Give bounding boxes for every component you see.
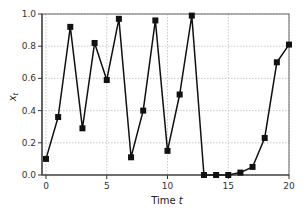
data-point-marker (128, 154, 134, 160)
data-point-marker (116, 16, 122, 22)
data-point-marker (189, 13, 195, 19)
y-tick-label: 0.8 (22, 41, 37, 51)
data-point-marker (237, 170, 243, 176)
data-point-marker (201, 172, 207, 178)
x-tick-label: 5 (104, 181, 110, 191)
data-point-marker (177, 92, 183, 98)
data-point-marker (225, 172, 231, 178)
data-point-marker (165, 148, 171, 154)
y-axis-label: xt (7, 92, 20, 102)
data-point-marker (67, 24, 73, 30)
data-point-marker (213, 172, 219, 178)
data-point-marker (262, 135, 268, 141)
data-point-marker (274, 59, 280, 65)
data-point-marker (92, 40, 98, 46)
data-point-marker (250, 164, 256, 170)
x-tick-label: 20 (283, 181, 295, 191)
y-tick-label: 0.2 (22, 138, 36, 148)
y-tick-label: 1.0 (22, 9, 37, 19)
y-tick-label: 0.4 (22, 106, 37, 116)
data-point-marker (55, 114, 61, 120)
data-point-marker (43, 156, 49, 162)
data-point-marker (140, 108, 146, 114)
data-point-marker (79, 125, 85, 131)
x-axis-label: Time t (150, 195, 184, 206)
data-point-marker (286, 42, 292, 48)
data-point-marker (152, 17, 158, 23)
y-tick-label: 0.0 (22, 170, 37, 180)
y-tick-label: 0.6 (22, 73, 37, 83)
x-tick-label: 15 (223, 181, 234, 191)
x-tick-label: 0 (43, 181, 49, 191)
data-point-marker (104, 77, 110, 83)
x-tick-label: 10 (162, 181, 174, 191)
line-chart: 0.00.20.40.60.81.005101520 Time t xt (0, 0, 307, 213)
